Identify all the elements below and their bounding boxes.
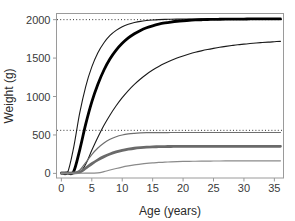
- y-axis-ticks: [53, 20, 57, 174]
- curve-small-medium-thick: [61, 146, 280, 173]
- data-curves-group: [61, 19, 280, 175]
- reference-lines-group: [57, 20, 283, 131]
- x-tick-label: 30: [238, 182, 250, 194]
- x-tick-label: 25: [207, 182, 219, 194]
- x-tick-label: 35: [268, 182, 280, 194]
- y-axis-title: Weight (g): [2, 68, 16, 123]
- curve-large-medium-thick: [61, 19, 280, 174]
- x-axis-tick-labels: 05101520253035: [58, 182, 280, 194]
- x-axis-title: Age (years): [139, 204, 201, 218]
- x-tick-label: 15: [147, 182, 159, 194]
- x-tick-label: 20: [177, 182, 189, 194]
- x-tick-label: 0: [58, 182, 64, 194]
- y-tick-label: 1500: [26, 52, 50, 64]
- x-tick-label: 5: [89, 182, 95, 194]
- y-axis-tick-labels: 0500100015002000: [26, 14, 50, 180]
- chart-canvas: 05101520253035 0500100015002000 Age (yea…: [0, 0, 295, 221]
- curve-small-fast-thin: [61, 132, 280, 173]
- growth-curve-figure: 05101520253035 0500100015002000 Age (yea…: [0, 0, 295, 221]
- y-tick-label: 500: [32, 129, 50, 141]
- x-axis-ticks: [61, 178, 274, 182]
- y-tick-label: 2000: [26, 14, 50, 26]
- y-tick-label: 1000: [26, 91, 50, 103]
- x-tick-label: 10: [116, 182, 128, 194]
- y-tick-label: 0: [44, 167, 50, 179]
